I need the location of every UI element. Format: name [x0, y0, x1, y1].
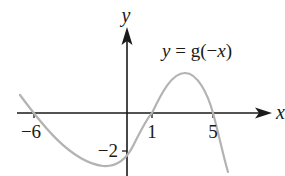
function-curve	[20, 73, 228, 172]
tick-label-x-neg6: −6	[21, 121, 41, 142]
y-axis-label: y	[120, 4, 131, 27]
x-axis-label: x	[275, 101, 285, 123]
function-graph: −6 1 5 −2 x y y = g(−x)	[0, 0, 285, 176]
tick-label-x-5: 5	[208, 121, 218, 142]
tick-label-x-1: 1	[147, 121, 157, 142]
x-axis	[17, 108, 272, 119]
tick-marks	[34, 113, 213, 151]
tick-label-y-neg2: −2	[98, 140, 118, 161]
curve-label: y = g(−x)	[160, 40, 232, 62]
